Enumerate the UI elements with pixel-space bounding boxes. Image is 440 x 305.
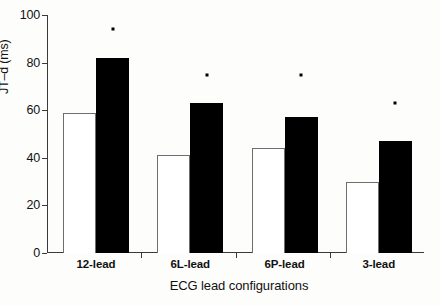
y-axis-tick-label: 100 [20,8,40,22]
x-axis-label-3-lead: 3-lead [362,258,395,270]
y-axis-title: JT–d (ms) [0,0,11,94]
significance-marker-3-lead [394,102,397,105]
y-axis-tick-label: 80 [26,56,40,70]
x-axis-label-12-lead: 12-lead [77,258,116,270]
y-axis-tick [42,110,47,111]
y-axis-tick-label: 20 [26,198,40,212]
y-axis-tick [42,158,47,159]
y-axis-tick-label: 40 [26,151,40,165]
y-axis-tick [42,205,47,206]
y-axis-tick-label: 0 [33,246,40,260]
x-axis-title: ECG lead configurations [0,278,440,293]
bar-12-lead-open [63,113,96,253]
x-axis-title-text: ECG lead configurations [132,278,309,293]
significance-marker-12-lead [111,28,114,31]
significance-marker-6l-lead [205,73,208,76]
bar-6p-lead-open [252,148,285,253]
x-axis-label-6p-lead: 6P-lead [264,258,304,270]
bar-6l-lead-filled [190,103,223,253]
x-axis-tick [330,253,331,258]
x-axis-tick [141,253,142,258]
y-axis-tick [42,15,47,16]
bar-12-lead-filled [96,58,129,253]
significance-marker-6p-lead [300,73,303,76]
bar-3-lead-open [346,182,379,253]
plot-area: 020406080100 12-lead6L-lead6P-lead3-lead [47,15,424,253]
bar-6p-lead-filled [285,117,318,253]
bar-6l-lead-open [157,155,190,253]
x-axis-label-6l-lead: 6L-lead [170,258,210,270]
chart-figure: JT–d (ms) 020406080100 12-lead6L-lead6P-… [0,0,440,305]
y-axis-tick [42,253,47,254]
y-axis-line [47,15,48,253]
x-axis-tick [236,253,237,258]
bar-3-lead-filled [379,141,412,253]
y-axis-tick [42,63,47,64]
y-axis-tick-label: 60 [26,103,40,117]
